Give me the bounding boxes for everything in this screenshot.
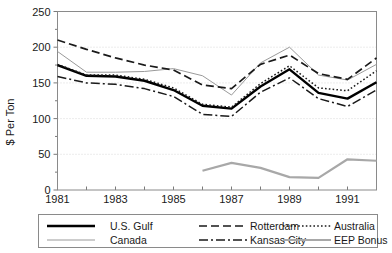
x-tick-label: 1983: [103, 193, 127, 205]
y-tick-label: 50: [38, 148, 50, 160]
x-tick-label: 1981: [45, 193, 69, 205]
y-tickmarks: [54, 12, 58, 191]
y-axis-tick-labels: 050100150200250: [32, 6, 50, 197]
x-tickmarks: [58, 187, 377, 191]
x-tick-label: 1985: [161, 193, 185, 205]
legend-label-u-s-gulf: U.S. Gulf: [110, 220, 153, 232]
chart-figure: 050100150200250 198119831985198719891991…: [0, 0, 392, 253]
legend-box: [39, 215, 378, 248]
y-tick-label: 150: [32, 77, 50, 89]
y-axis-title: $ Per Ton: [4, 99, 16, 146]
legend-label-australia: Australia: [334, 220, 375, 232]
y-tick-label: 100: [32, 113, 50, 125]
legend-label-canada: Canada: [110, 234, 147, 246]
legend-label-eep-bonus: EEP Bonus: [334, 234, 388, 246]
x-tick-label: 1991: [335, 193, 359, 205]
series-line-eep-bonus: [203, 159, 377, 178]
x-tick-label: 1987: [219, 193, 243, 205]
x-axis-tick-labels: 198119831985198719891991: [45, 193, 359, 205]
line-chart: 050100150200250 198119831985198719891991…: [0, 0, 392, 253]
data-series-group: [58, 40, 377, 178]
gridlines: [58, 12, 377, 155]
y-tick-label: 250: [32, 6, 50, 18]
chart-legend: U.S. GulfRotterdamAustraliaCanadaKansas …: [39, 215, 388, 248]
series-line-kansas-city: [58, 76, 377, 116]
x-tick-label: 1989: [277, 193, 301, 205]
y-tick-label: 200: [32, 41, 50, 53]
